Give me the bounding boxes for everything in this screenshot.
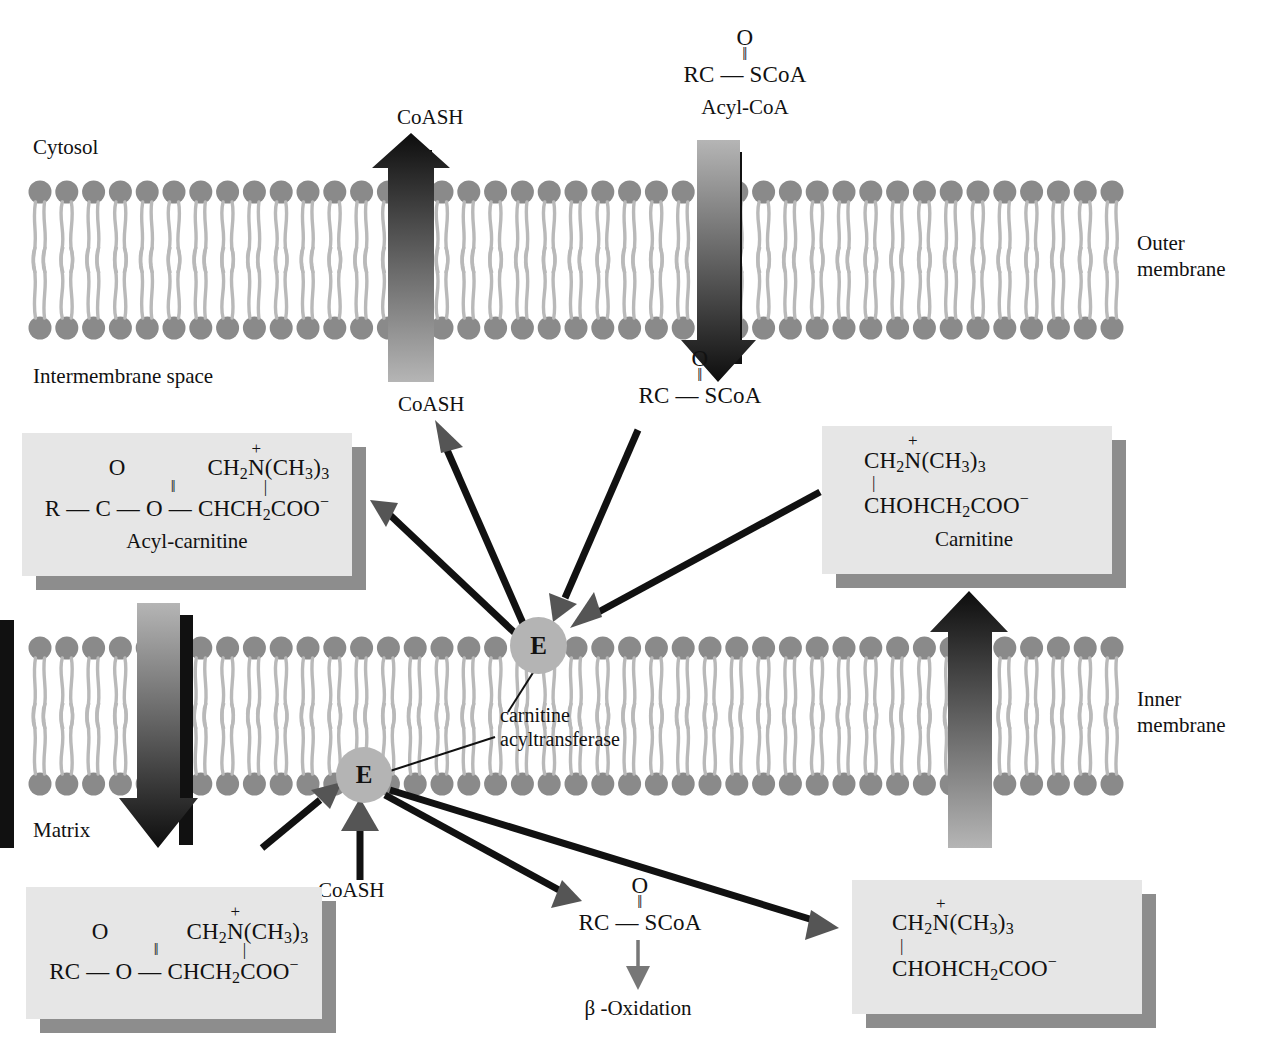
carnitine-matrix-main-sub: 2 — [990, 966, 998, 983]
reaction-arrows-upper-enzyme — [370, 420, 820, 634]
box-carnitine-matrix: CH2+N(CH3)3 | CHOHCH2COO− — [852, 880, 1142, 1014]
acyl-coa-top-backbone: RC — SCoA — [630, 61, 860, 88]
label-coash-matrix: CoASH — [318, 878, 385, 903]
carnitine-matrix-top-row: CH2+N(CH3)3 — [892, 910, 1014, 938]
acyl-carnitine-ch3-close-sub: 3 — [321, 466, 329, 483]
carnitine-matrix-ch3-sub: 3 — [990, 921, 998, 938]
acyl-coa-top-scoa: SCoA — [750, 62, 807, 87]
acyl-carnitine-matrix-vertical-bond: | — [243, 940, 247, 959]
acyl-carnitine-charge: + — [252, 439, 262, 459]
enzyme-symbol: E — [530, 632, 547, 660]
acyl-carnitine-double-bond: ‖ — [171, 477, 176, 496]
label-coash-cytosol: CoASH — [397, 105, 464, 130]
carnitine-im-main-chain: CHOHCH — [864, 493, 962, 518]
carnitine-im-ch2-sub: 2 — [896, 458, 904, 475]
box-acyl-carnitine-cytosolic: OCH2+N(CH3)3 ‖| R — C — O — CHCH2COO− Ac… — [22, 433, 352, 576]
acyl-coa-top-bond: — — [720, 62, 743, 87]
acyl-coa-matrix-scoa: SCoA — [645, 910, 702, 935]
carnitine-im-main-sub: 2 — [962, 503, 970, 520]
acyl-coa-name-label: Acyl-CoA — [630, 95, 860, 120]
carnitine-name-label: Carnitine — [935, 527, 1013, 552]
carnitine-matrix-ch2: CH — [892, 910, 924, 935]
acyl-carnitine-main-row: R — C — O — CHCH2COO− — [45, 493, 330, 524]
acyl-coa-im-backbone: RC — SCoA — [600, 382, 800, 409]
acyl-carnitine-matrix-double-bond: ‖ — [154, 940, 159, 959]
acyl-carnitine-main-chain: R — C — O — CHCH — [45, 495, 263, 520]
membrane-label-outer: Outer membrane — [1137, 230, 1226, 283]
label-coash-intermembrane: CoASH — [398, 392, 465, 417]
carnitine-im-coo-charge: − — [1020, 490, 1029, 507]
carnitine-im-top-row: CH2+N(CH3)3 — [864, 448, 986, 476]
box-content: OCH2+N(CH3)3 ‖| RC — O — CHCH2COO− — [26, 887, 322, 1019]
carnitine-matrix-main-chain: CHOHCH — [892, 955, 990, 980]
beta-oxidation-arrow — [626, 940, 650, 990]
enzyme-name-line2: acyltransferase — [500, 727, 620, 751]
membrane-label-outer-line1: Outer — [1137, 230, 1226, 256]
acyl-coa-matrix-bond: — — [615, 910, 638, 935]
acyl-carnitine-oxygen: O — [109, 455, 126, 480]
acyl-carnitine-inner-transport-arrow — [119, 603, 198, 848]
acyl-carnitine-matrix-main-row: RC — O — CHCH2COO− — [49, 956, 298, 987]
acyl-carnitine-matrix-coo-charge: − — [289, 956, 298, 973]
acyl-coa-top-rc: RC — [683, 62, 714, 87]
carnitine-im-coo: COO — [971, 493, 1020, 518]
box-content: OCH2+N(CH3)3 ‖| R — C — O — CHCH2COO− Ac… — [22, 433, 352, 576]
enzyme-name-line1: carnitine — [500, 703, 620, 727]
compartment-label-matrix: Matrix — [33, 818, 90, 843]
molecule-acyl-coa-cytosolic: O ‖ RC — SCoA Acyl-CoA — [630, 24, 860, 120]
carnitine-im-main-row: CHOHCH2COO− — [864, 490, 1029, 521]
acyl-carnitine-bond-row: ‖| — [171, 477, 268, 497]
acyl-carnitine-vertical-bond: | — [264, 477, 268, 496]
carnitine-matrix-branch: CH2+N(CH3)3 — [892, 910, 1014, 938]
box-content: CH2+N(CH3)3 | CHOHCH2COO− — [852, 880, 1142, 1014]
molecule-acyl-coa-intermembrane: O ‖ RC — SCoA — [600, 345, 800, 409]
carnitine-im-branch: CH2+N(CH3)3 — [864, 448, 986, 476]
enzyme-circle-matrix-facing: E — [336, 747, 392, 803]
carnitine-im-ch3-close: ) — [970, 448, 978, 473]
acyl-coa-im-scoa: SCoA — [705, 383, 762, 408]
compartment-label-cytosol: Cytosol — [33, 135, 98, 160]
acyl-carnitine-matrix-main-chain: RC — O — CHCH — [49, 959, 232, 984]
acyl-carnitine-coo-charge: − — [320, 493, 329, 510]
acyl-coa-im-bond: — — [675, 383, 698, 408]
carnitine-im-ch3-close-sub: 3 — [978, 458, 986, 475]
diagram-canvas: Cytosol Intermembrane space Matrix Outer… — [0, 0, 1263, 1055]
acyl-carnitine-main-sub: 2 — [263, 506, 271, 523]
molecule-acyl-coa-matrix: O ‖ RC — SCoA — [540, 872, 740, 936]
acyl-carnitine-matrix-oxygen: O — [92, 919, 109, 944]
coash-outer-transport-arrow — [372, 133, 450, 382]
acyl-coa-matrix-rc: RC — [578, 910, 609, 935]
membrane-label-inner: Inner membrane — [1137, 686, 1226, 739]
box-carnitine-intermembrane: CH2+N(CH3)3 | CHOHCH2COO− Carnitine — [822, 426, 1112, 574]
enzyme-circle-outer-facing: E — [510, 617, 567, 674]
carnitine-matrix-ch3-open: (CH — [949, 910, 989, 935]
acyl-carnitine-matrix-coo: COO — [240, 959, 289, 984]
acyl-coa-matrix-backbone: RC — SCoA — [540, 909, 740, 936]
carnitine-matrix-main-row: CHOHCH2COO− — [892, 953, 1057, 984]
acyl-carnitine-matrix-ch3-open: (CH — [244, 919, 284, 944]
box-content: CH2+N(CH3)3 | CHOHCH2COO− Carnitine — [822, 426, 1112, 574]
label-beta-oxidation: β -Oxidation — [538, 996, 738, 1021]
acyl-carnitine-matrix-ch3-close: ) — [292, 919, 300, 944]
carnitine-im-ch3-open: (CH — [921, 448, 961, 473]
carnitine-matrix-ch3-close-sub: 3 — [1006, 921, 1014, 938]
membrane-label-outer-line2: membrane — [1137, 256, 1226, 282]
outer-membrane-bilayer — [29, 181, 1124, 340]
carnitine-matrix-coo-charge: − — [1048, 953, 1057, 970]
acyl-carnitine-coo: COO — [271, 495, 320, 520]
carnitine-matrix-coo: COO — [999, 955, 1048, 980]
carnitine-matrix-ch3-close: ) — [998, 910, 1006, 935]
box-acyl-carnitine-matrix: OCH2+N(CH3)3 ‖| RC — O — CHCH2COO− — [26, 887, 322, 1019]
carnitine-im-ch3-sub: 3 — [962, 458, 970, 475]
enzyme-name-label: carnitine acyltransferase — [500, 703, 620, 752]
acyl-carnitine-matrix-charge: + — [231, 902, 241, 922]
compartment-label-intermembrane-space: Intermembrane space — [33, 364, 213, 389]
carnitine-im-charge: + — [908, 431, 918, 451]
membrane-label-inner-line1: Inner — [1137, 686, 1226, 712]
carnitine-im-ch2: CH — [864, 448, 896, 473]
carnitine-matrix-ch2-sub: 2 — [924, 921, 932, 938]
acyl-carnitine-matrix-ch3-close-sub: 3 — [300, 929, 308, 946]
acyl-coa-im-rc: RC — [638, 383, 669, 408]
acyl-carnitine-ch3-close: ) — [313, 455, 321, 480]
acyl-carnitine-matrix-bond-row: ‖| — [154, 940, 247, 960]
